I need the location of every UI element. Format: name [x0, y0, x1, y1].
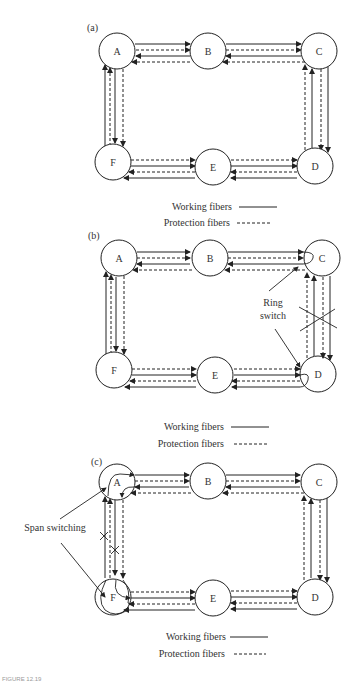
node-b: B [190, 33, 226, 69]
node-c: C [301, 464, 337, 500]
svg-text:E: E [212, 370, 218, 381]
legend-protection: Protection fibers [159, 648, 225, 659]
legend-protection: Protection fibers [158, 438, 224, 449]
svg-text:C: C [316, 477, 323, 488]
legend: Working fibers Protection fibers [164, 201, 277, 228]
legend-working: Working fibers [164, 421, 224, 432]
svg-text:F: F [110, 157, 116, 168]
node-d: D [297, 148, 333, 184]
svg-text:B: B [205, 46, 212, 57]
svg-text:B: B [205, 476, 212, 487]
svg-text:Ring: Ring [263, 297, 282, 308]
node-e: E [195, 149, 231, 185]
node-b: B [190, 463, 226, 499]
node-b: B [192, 240, 228, 276]
svg-text:E: E [210, 593, 216, 604]
svg-text:D: D [311, 592, 318, 603]
svg-text:A: A [113, 477, 121, 488]
node-a: A [101, 240, 137, 276]
ring-switch-annotation: Ring switch [260, 267, 300, 367]
node-c: C [304, 240, 340, 276]
svg-text:F: F [111, 365, 117, 376]
node-e: E [197, 357, 233, 393]
node-e: E [195, 580, 231, 616]
svg-text:A: A [115, 253, 123, 264]
figure-caption: FIGURE 12.19 [2, 676, 41, 682]
panel-a: (a) A B C D E F [87, 22, 337, 228]
legend-working: Working fibers [172, 201, 232, 212]
legend-working: Working fibers [166, 631, 226, 642]
svg-text:C: C [316, 46, 323, 57]
node-a: A [99, 33, 135, 69]
panel-label: (c) [91, 456, 102, 468]
panel-c: (c) [24, 456, 337, 659]
svg-text:A: A [113, 46, 121, 57]
node-f: F [95, 144, 131, 180]
svg-text:E: E [210, 162, 216, 173]
svg-text:C: C [319, 253, 326, 264]
panel-b: (b) [88, 230, 340, 449]
node-d: D [297, 579, 333, 615]
svg-text:Span switching: Span switching [24, 522, 85, 533]
panel-label: (a) [87, 22, 98, 34]
legend-protection: Protection fibers [164, 217, 230, 228]
legend: Working fibers Protection fibers [158, 421, 269, 449]
svg-text:D: D [311, 161, 318, 172]
node-a: A [99, 464, 135, 500]
ring-diagram: (a) A B C D E F [0, 0, 363, 685]
svg-text:switch: switch [260, 310, 286, 321]
svg-text:D: D [314, 369, 321, 380]
span-switching-annotation: Span switching [24, 488, 106, 597]
svg-text:B: B [207, 253, 214, 264]
panel-label: (b) [88, 230, 100, 242]
node-c: C [301, 33, 337, 69]
node-f: F [96, 352, 132, 388]
legend: Working fibers Protection fibers [159, 631, 268, 659]
svg-text:F: F [110, 592, 116, 603]
